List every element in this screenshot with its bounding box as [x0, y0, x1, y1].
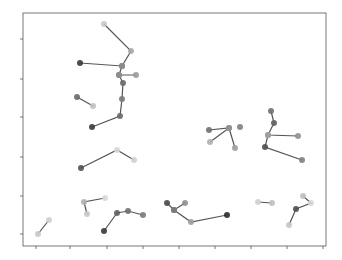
series-line	[265, 135, 302, 160]
plot-frame	[20, 13, 326, 249]
data-point-marker	[140, 212, 146, 218]
series-line	[81, 150, 134, 168]
series-line	[289, 196, 311, 225]
data-point-marker	[164, 200, 170, 206]
data-point-marker	[237, 124, 243, 130]
data-point-marker	[102, 195, 108, 201]
data-point-marker	[269, 200, 275, 206]
series-line	[209, 128, 235, 148]
data-point-marker	[131, 157, 137, 163]
data-point-marker	[188, 219, 194, 225]
data-point-marker	[300, 193, 306, 199]
data-point-marker	[74, 94, 80, 100]
data-point-marker	[308, 200, 314, 206]
data-point-marker	[77, 60, 83, 66]
data-point-marker	[271, 120, 277, 126]
data-point-marker	[255, 199, 261, 205]
data-point-marker	[182, 200, 188, 206]
data-point-marker	[119, 63, 125, 69]
data-point-marker	[206, 127, 212, 133]
data-point-marker	[171, 207, 177, 213]
data-point-marker	[120, 80, 126, 86]
chart	[0, 0, 342, 260]
data-point-marker	[119, 96, 125, 102]
data-point-marker	[101, 21, 107, 27]
data-point-marker	[128, 48, 134, 54]
data-point-marker	[90, 103, 96, 109]
series-line	[80, 24, 131, 66]
data-point-marker	[295, 133, 301, 139]
data-point-marker	[78, 165, 84, 171]
series-markers	[35, 21, 314, 237]
data-point-marker	[265, 132, 271, 138]
data-point-marker	[232, 145, 238, 151]
data-point-marker	[262, 144, 268, 150]
data-point-marker	[133, 72, 139, 78]
series-line	[92, 75, 123, 127]
data-point-marker	[46, 217, 52, 223]
data-point-marker	[125, 208, 131, 214]
data-point-marker	[89, 124, 95, 130]
data-point-marker	[116, 72, 122, 78]
data-point-marker	[299, 157, 305, 163]
data-point-marker	[226, 125, 232, 131]
data-point-marker	[114, 147, 120, 153]
data-point-marker	[81, 199, 87, 205]
series-line	[104, 211, 143, 231]
data-point-marker	[207, 139, 213, 145]
data-point-marker	[286, 222, 292, 228]
data-point-marker	[101, 228, 107, 234]
data-point-marker	[117, 113, 123, 119]
data-point-marker	[268, 108, 274, 114]
data-point-marker	[35, 231, 41, 237]
data-point-marker	[224, 212, 230, 218]
data-point-marker	[293, 206, 299, 212]
data-point-marker	[114, 210, 120, 216]
data-point-marker	[84, 211, 90, 217]
series-line	[174, 210, 227, 222]
